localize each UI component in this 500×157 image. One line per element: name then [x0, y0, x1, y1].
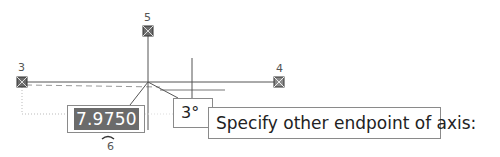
grip-4-label: 4	[276, 63, 283, 74]
cursor-label-6: 6	[107, 141, 114, 152]
command-prompt-tooltip: Specify other endpoint of axis:	[208, 107, 441, 139]
angle-tooltip: 3°	[173, 98, 213, 128]
cursor-arc-icon	[102, 137, 114, 140]
grip-5-label: 5	[144, 12, 151, 23]
grip-3-icon[interactable]	[17, 77, 27, 87]
grip-5-icon[interactable]	[143, 26, 153, 36]
rubberband-line-left	[130, 82, 148, 105]
tracking-dashed-line	[26, 85, 160, 87]
dynamic-input-field[interactable]: 7.9750	[67, 105, 145, 133]
dynamic-input-value[interactable]: 7.9750	[74, 108, 139, 130]
grip-3-label: 3	[18, 62, 25, 73]
grip-4-icon[interactable]	[274, 77, 284, 87]
